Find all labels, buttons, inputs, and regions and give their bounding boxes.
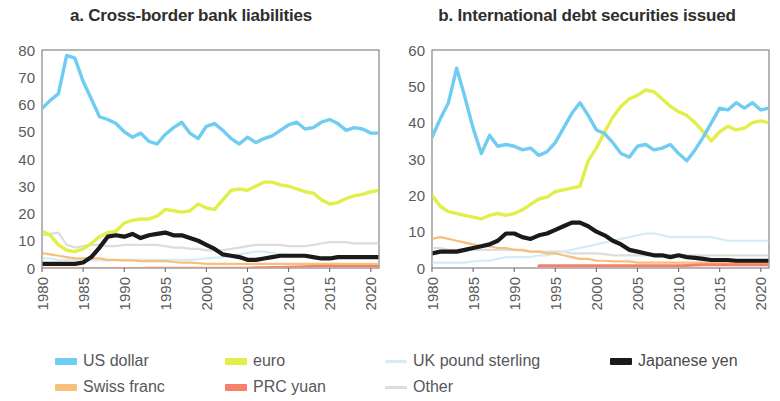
legend-row-primary: US dollareuroUK pound sterlingJapanese y… — [0, 348, 780, 374]
panel-b-xtick-label: 2005 — [629, 277, 646, 310]
panel-a-plot: 0102030405060708019801985199019952000200… — [0, 32, 390, 345]
panel-a: a. Cross-border bank liabilities 0102030… — [0, 0, 390, 345]
legend-swatch-cny-icon — [225, 384, 247, 391]
chart-legend: US dollareuroUK pound sterlingJapanese y… — [0, 346, 780, 401]
panel-a-xtick-label: 2010 — [280, 277, 297, 310]
panel-b-ytick-label: 10 — [408, 223, 425, 240]
chart-panels: a. Cross-border bank liabilities 0102030… — [0, 0, 780, 345]
panel-b-xtick-label: 1995 — [547, 277, 564, 310]
panel-a-xtick-label: 1985 — [75, 277, 92, 310]
legend-swatch-usd-icon — [55, 358, 77, 365]
panel-b-title: b. International debt securities issued — [390, 6, 780, 26]
panel-b-xtick-label: 2000 — [588, 277, 605, 310]
figure-root: a. Cross-border bank liabilities 0102030… — [0, 0, 780, 401]
panel-a-ytick-label: 60 — [18, 96, 35, 113]
panel-a-xtick-label: 1980 — [34, 277, 51, 310]
legend-label-oth: Other — [413, 378, 453, 396]
panel-b: b. International debt securities issued … — [390, 0, 780, 345]
panel-a-ytick-label: 80 — [18, 42, 35, 59]
legend-item-oth[interactable]: Other — [385, 378, 453, 396]
panel-a-ytick-label: 50 — [18, 123, 35, 140]
legend-item-jpy[interactable]: Japanese yen — [610, 352, 738, 370]
panel-a-xtick-label: 2015 — [321, 277, 338, 310]
panel-b-ytick-label: 30 — [408, 151, 425, 168]
legend-swatch-eur-icon — [225, 358, 247, 365]
legend-swatch-gbp-icon — [385, 360, 407, 363]
legend-label-usd: US dollar — [83, 352, 149, 370]
panel-a-plot-frame — [42, 50, 379, 268]
legend-item-gbp[interactable]: UK pound sterling — [385, 352, 540, 370]
legend-label-jpy: Japanese yen — [638, 352, 738, 370]
panel-a-ytick-label: 10 — [18, 232, 35, 249]
legend-swatch-chf-icon — [55, 384, 77, 391]
panel-b-ytick-label: 40 — [408, 114, 425, 131]
legend-item-usd[interactable]: US dollar — [55, 352, 149, 370]
panel-a-xtick-label: 1995 — [157, 277, 174, 310]
legend-label-eur: euro — [253, 352, 285, 370]
panel-a-ytick-label: 40 — [18, 151, 35, 168]
legend-label-chf: Swiss franc — [83, 378, 165, 396]
panel-b-series-prc-yuan — [539, 265, 769, 266]
panel-b-ytick-label: 20 — [408, 187, 425, 204]
panel-b-xtick-label: 1985 — [465, 277, 482, 310]
panel-a-ytick-label: 20 — [18, 205, 35, 222]
legend-row-secondary: Swiss francPRC yuanOther — [0, 374, 780, 400]
legend-item-chf[interactable]: Swiss franc — [55, 378, 165, 396]
panel-b-ytick-label: 60 — [408, 42, 425, 59]
legend-label-gbp: UK pound sterling — [413, 352, 540, 370]
legend-swatch-oth-icon — [385, 386, 407, 389]
panel-b-xtick-label: 1980 — [424, 277, 441, 310]
panel-b-xtick-label: 2015 — [711, 277, 728, 310]
legend-item-eur[interactable]: euro — [225, 352, 285, 370]
legend-label-cny: PRC yuan — [253, 378, 326, 396]
panel-a-title: a. Cross-border bank liabilities — [0, 6, 390, 26]
panel-b-ytick-label: 0 — [417, 260, 425, 277]
panel-a-ytick-label: 30 — [18, 178, 35, 195]
panel-b-xtick-label: 1990 — [506, 277, 523, 310]
panel-a-xtick-label: 2020 — [362, 277, 379, 310]
panel-b-plot: 0102030405060198019851990199520002005201… — [390, 32, 780, 345]
panel-b-ytick-label: 50 — [408, 78, 425, 95]
legend-swatch-jpy-icon — [610, 358, 632, 365]
panel-a-ytick-label: 70 — [18, 69, 35, 86]
panel-b-xtick-label: 2010 — [670, 277, 687, 310]
panel-a-xtick-label: 2000 — [198, 277, 215, 310]
panel-a-ytick-label: 0 — [27, 260, 35, 277]
legend-item-cny[interactable]: PRC yuan — [225, 378, 326, 396]
panel-b-xtick-label: 2020 — [752, 277, 769, 310]
panel-a-xtick-label: 1990 — [116, 277, 133, 310]
panel-a-xtick-label: 2005 — [239, 277, 256, 310]
